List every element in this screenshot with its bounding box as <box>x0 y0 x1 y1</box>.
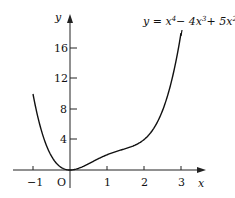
y-tick-label: 4 <box>60 133 67 146</box>
y-ticks <box>70 48 77 139</box>
x-tick-label: 3 <box>178 176 185 189</box>
label-leader <box>181 30 182 36</box>
y-tick-label: 16 <box>54 42 68 55</box>
y-tick-label: 12 <box>54 72 68 85</box>
origin-label: O <box>57 176 66 189</box>
x-tick-label: 2 <box>141 176 148 189</box>
x-ticks <box>33 166 181 170</box>
y-axis-label: y <box>54 11 62 24</box>
y-axis-arrow-icon <box>67 14 73 23</box>
equation-label: y = x4− 4x3+ 5x2 <box>142 15 235 28</box>
x-tick-label: 1 <box>104 176 111 189</box>
chart: −1 O 1 2 3 x 4 8 12 16 y y = x4− 4x3+ 5x… <box>0 0 235 198</box>
y-tick-label: 8 <box>60 103 67 116</box>
x-tick-label: −1 <box>27 176 43 189</box>
x-axis-label: x <box>198 177 205 190</box>
x-axis-arrow-icon <box>197 167 206 173</box>
